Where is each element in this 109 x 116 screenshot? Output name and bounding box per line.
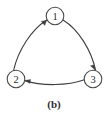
figure-caption: (b) [47,98,61,111]
edge-3-to-2 [25,79,84,84]
directed-graph-svg: 1 2 3 (b) [0,0,109,116]
edge-path-1-to-3 [63,20,95,70]
edges-group [14,20,96,84]
edge-1-to-3 [63,20,95,70]
edge-2-to-1 [14,20,47,70]
node-2: 2 [7,70,25,88]
node-3: 3 [84,70,102,88]
node-1-label: 1 [52,11,57,22]
node-2-label: 2 [13,74,18,85]
figure-container: 1 2 3 (b) [0,0,109,116]
edge-path-2-to-1 [14,20,47,70]
node-1: 1 [46,7,64,25]
node-3-label: 3 [90,74,95,85]
edge-path-3-to-2 [25,80,84,85]
